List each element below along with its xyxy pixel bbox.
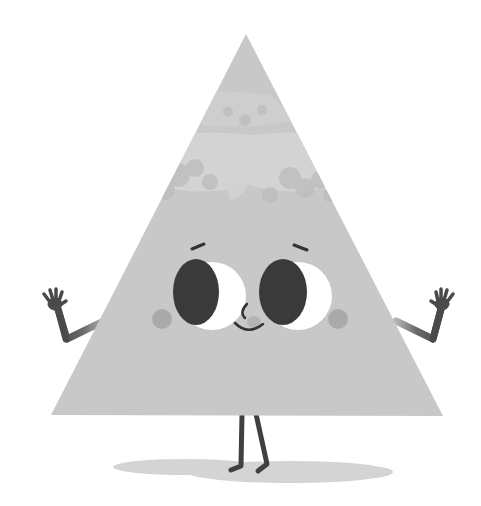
ground-shadow (113, 459, 393, 483)
right-arm (396, 309, 441, 339)
right-hand-icon (431, 289, 453, 310)
right-cheek (328, 309, 348, 329)
triangle-body (51, 34, 443, 416)
illustration-canvas: Cartoon triangle character waving with b… (0, 0, 481, 506)
triangle-character-illustration (0, 0, 481, 506)
left-hand-icon (44, 289, 66, 310)
left-cheek (152, 309, 172, 329)
